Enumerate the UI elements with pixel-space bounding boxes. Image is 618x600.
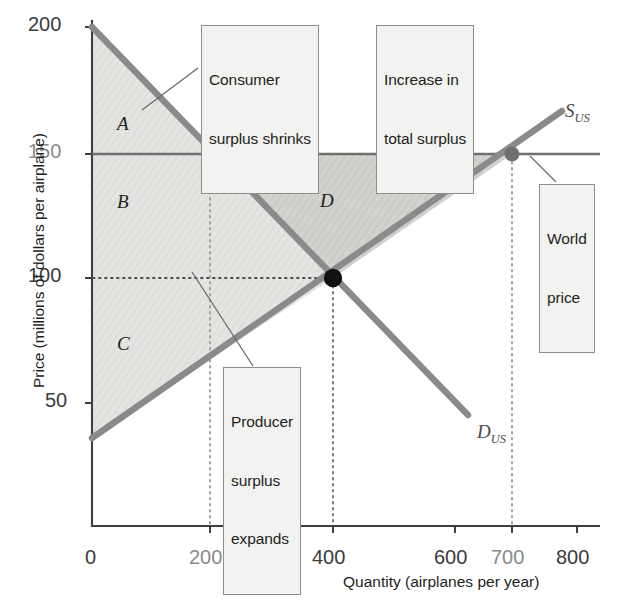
demand-curve-label: DUS [477,421,506,447]
callout-producer-line1: Producer [231,412,293,432]
y-tick-label-50: 50 [45,389,67,412]
demand-curve-label-main: D [477,421,491,442]
supply-curve-label-main: S [565,100,575,121]
region-label-a: A [117,113,129,135]
callout-consumer-line1: Consumer [209,70,311,90]
x-tick-label-400: 400 [312,546,345,569]
chart-canvas: 200 150 100 50 0 200 400 600 700 800 Pri… [0,0,618,600]
region-label-d: D [320,190,334,212]
callout-world-line1: World [547,229,587,249]
callout-consumer-surplus: Consumer surplus shrinks [201,25,319,194]
x-tick-label-800: 800 [556,546,589,569]
marker-q700-world-price [505,147,520,162]
supply-curve-label: SUS [565,100,590,126]
demand-curve-label-sub: US [491,432,506,446]
callout-total-line2: total surplus [384,129,466,149]
callout-producer-line3: expands [231,529,293,549]
callout-world-price: World price [539,184,595,353]
x-axis-title: Quantity (airplanes per year) [343,573,539,591]
x-tick-label-200: 200 [189,546,222,569]
callout-world-line2: price [547,288,587,308]
callout-consumer-line2: surplus shrinks [209,129,311,149]
callout-producer-surplus: Producer surplus expands [223,367,301,595]
region-label-c: C [117,333,130,355]
callout-producer-line2: surplus [231,471,293,491]
supply-curve-label-sub: US [575,111,590,125]
region-label-b: B [117,191,129,213]
x-tick-label-600: 600 [434,546,467,569]
y-tick-label-200: 200 [28,13,61,36]
x-tick-label-0: 0 [85,546,96,569]
y-axis-title: Price (millions of dollars per airplane) [30,138,48,388]
x-tick-label-700: 700 [491,546,524,569]
marker-equilibrium [324,269,342,287]
leader-world-price [530,156,556,182]
callout-total-surplus: Increase in total surplus [376,25,474,194]
callout-total-line1: Increase in [384,70,466,90]
